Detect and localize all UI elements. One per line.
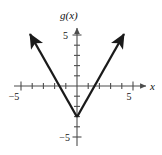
y-tick-label-5: 5 (63, 30, 68, 41)
x-tick-label-minus5: −5 (9, 91, 20, 102)
curve-right-branch (77, 34, 124, 117)
coordinate-plane: g(x) x −5 5 5 −5 (0, 0, 162, 155)
y-axis-label: g(x) (60, 9, 78, 22)
x-axis-label: x (149, 80, 155, 92)
x-axis (14, 82, 146, 91)
x-tick-label-5: 5 (127, 91, 132, 102)
y-axis (73, 28, 82, 146)
curve-left-branch (30, 34, 77, 117)
graph-figure: g(x) x −5 5 5 −5 (0, 0, 162, 155)
y-tick-label-minus5: −5 (59, 132, 70, 143)
